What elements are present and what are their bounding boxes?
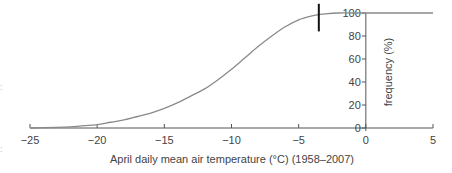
x-axis-title: April daily mean air temperature (°C) (1… [110,153,354,165]
x-tick-label: −20 [88,134,107,146]
x-tick-label: −15 [155,134,174,146]
x-axis: −25−20−15−10−505 [21,124,436,146]
x-tick-label: −5 [292,134,305,146]
x-tick-label: 0 [363,134,369,146]
y-tick-label: 80 [349,30,361,42]
y-tick-label: 20 [349,99,361,111]
edge-mark-lower: : [0,144,3,154]
cumulative-frequency-chart: : : −25−20−15−10−505 020406080100 April … [0,0,452,173]
x-tick-label: −10 [222,134,241,146]
y-tick-label: 40 [349,76,361,88]
x-tick-label: −25 [21,134,40,146]
frequency-curve [30,13,433,128]
y-tick-label: 0 [355,122,361,134]
edge-mark-upper: : [0,82,3,92]
data-series [30,13,433,128]
x-tick-label: 5 [430,134,436,146]
y-axis: 020406080100 [342,7,365,134]
y-axis-title: frequency (%) [382,38,394,106]
y-tick-label: 60 [349,53,361,65]
